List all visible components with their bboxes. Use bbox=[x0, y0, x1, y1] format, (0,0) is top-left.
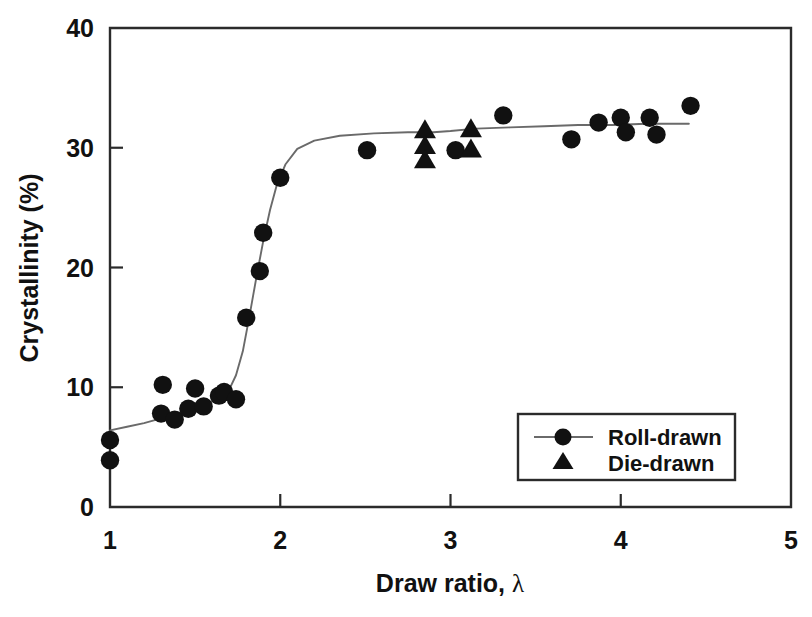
data-point-circle bbox=[271, 168, 289, 186]
x-axis-title-group: Draw ratio, λ bbox=[376, 569, 524, 597]
data-point-circle bbox=[154, 376, 172, 394]
data-point-circle bbox=[681, 97, 699, 115]
y-tick-label-30: 30 bbox=[66, 134, 94, 162]
x-tick-label-5: 5 bbox=[784, 526, 798, 554]
chart-background bbox=[0, 0, 812, 617]
data-point-circle bbox=[101, 431, 119, 449]
y-tick-label-0: 0 bbox=[80, 493, 94, 521]
data-point-circle bbox=[589, 113, 607, 131]
data-point-circle bbox=[358, 141, 376, 159]
y-axis-title: Crystallinity (%) bbox=[15, 174, 43, 363]
y-tick-label-20: 20 bbox=[66, 254, 94, 282]
data-point-circle bbox=[251, 262, 269, 280]
y-tick-label-40: 40 bbox=[66, 14, 94, 42]
legend-label-die-drawn: Die-drawn bbox=[608, 451, 714, 476]
data-point-circle bbox=[562, 130, 580, 148]
data-point-circle bbox=[640, 109, 658, 127]
data-point-circle bbox=[194, 397, 212, 415]
x-tick-label-1: 1 bbox=[103, 526, 117, 554]
x-axis-title: Draw ratio, λ bbox=[376, 569, 524, 597]
data-point-circle bbox=[647, 125, 665, 143]
data-point-circle bbox=[494, 106, 512, 124]
x-axis-title-text: Draw ratio, bbox=[376, 569, 512, 597]
data-point-circle bbox=[186, 379, 204, 397]
legend-marker-circle-icon bbox=[555, 429, 572, 446]
data-point-circle bbox=[254, 224, 272, 242]
x-tick-label-3: 3 bbox=[444, 526, 458, 554]
x-tick-label-2: 2 bbox=[273, 526, 287, 554]
y-tick-label-10: 10 bbox=[66, 373, 94, 401]
crystallinity-vs-draw-ratio-chart: 010203040 12345 Crystallinity (%) Draw r… bbox=[0, 0, 812, 617]
legend-label-roll-drawn: Roll-drawn bbox=[608, 425, 722, 450]
data-point-circle bbox=[237, 309, 255, 327]
lambda-symbol: λ bbox=[512, 570, 524, 597]
chart-legend: Roll-drawn Die-drawn bbox=[518, 414, 735, 480]
x-tick-label-4: 4 bbox=[614, 526, 628, 554]
data-point-circle bbox=[101, 451, 119, 469]
data-point-circle bbox=[227, 390, 245, 408]
chart-figure: 010203040 12345 Crystallinity (%) Draw r… bbox=[0, 0, 812, 617]
data-point-circle bbox=[617, 123, 635, 141]
